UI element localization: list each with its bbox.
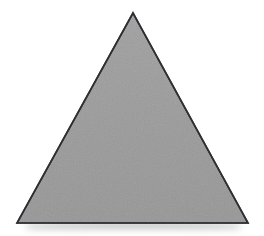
triangle-figure-svg (0, 0, 264, 236)
image-canvas (0, 0, 264, 236)
ground-shadow-band (26, 224, 240, 233)
ground-shadow (26, 223, 240, 234)
